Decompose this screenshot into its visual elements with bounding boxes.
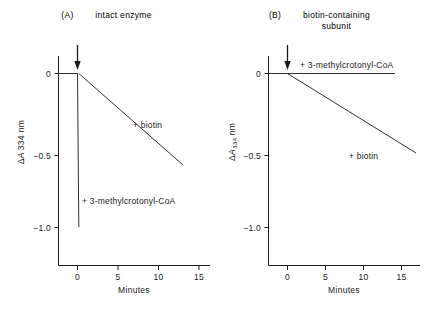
panel-b-label-biotin: + biotin (349, 151, 378, 161)
panel-b-ylab-unit: nm (227, 123, 237, 135)
panel-b-label-3methylcrotonyl-coa: + 3-methylcrotonyl-CoA (300, 60, 394, 70)
panel-b-xtick-label-15: 15 (397, 272, 407, 282)
panel-a-plot: 0 −0.5 −1.0 0 5 10 15 Minutes ΔA334nm (0, 0, 213, 312)
panel-b-ylab-a: A (227, 149, 237, 156)
panel-a-ylab-sub: 334 (16, 135, 26, 150)
panel-b-x-axis-title: Minutes (328, 285, 360, 295)
panel-a-ytick-label-0: 0 (46, 69, 51, 79)
panel-b-addition-arrow-icon (284, 45, 290, 70)
panel-a-series-3methylcrotonyl-coa (59, 74, 79, 228)
panel-a-label-biotin: + biotin (133, 120, 162, 130)
panel-b-ytick-label-0: 0 (256, 69, 261, 79)
panel-a-series-biotin (79, 74, 183, 166)
panel-b-y-axis-title: ΔA334nm (227, 123, 238, 161)
panel-a-xtick-label-10: 10 (154, 272, 164, 282)
panel-b-xtick-label-5: 5 (323, 272, 328, 282)
panel-a-ylab-a: A (16, 152, 26, 159)
panel-a-x-axis-title: Minutes (118, 285, 150, 295)
panel-a-label-3methylcrotonyl-coa: + 3-methylcrotonyl-CoA (82, 196, 176, 206)
panel-b-series-biotin (288, 74, 417, 154)
panel-a-xtick-label-5: 5 (116, 272, 121, 282)
panel-a-y-axis-title: ΔA334nm (16, 120, 26, 164)
panel-b: (B)biotin-containingsubunit 0 −0.5 −1.0 … (213, 0, 426, 312)
panel-a-ytick-label-m05: −0.5 (33, 151, 51, 161)
panel-a-xtick-label-0: 0 (75, 272, 80, 282)
panel-b-plot: 0 −0.5 −1.0 0 5 10 15 Minutes ΔA334nm (213, 0, 426, 312)
panel-b-xtick-label-10: 10 (359, 272, 369, 282)
panel-a: (A)intact enzyme 0 −0.5 −1.0 0 5 10 1 (0, 0, 213, 312)
panel-a-addition-arrow-icon (74, 45, 80, 70)
panel-b-ytick-label-m05: −0.5 (243, 151, 261, 161)
panel-a-ylab-unit: nm (16, 120, 26, 132)
figure-root: (A)intact enzyme 0 −0.5 −1.0 0 5 10 1 (0, 0, 426, 312)
panel-b-ylab-sub: 334 (231, 138, 238, 149)
panel-a-ytick-label-m10: −1.0 (33, 223, 51, 233)
panel-a-xtick-label-15: 15 (194, 272, 204, 282)
panel-b-xtick-label-0: 0 (285, 272, 290, 282)
panel-b-ytick-label-m10: −1.0 (243, 223, 261, 233)
